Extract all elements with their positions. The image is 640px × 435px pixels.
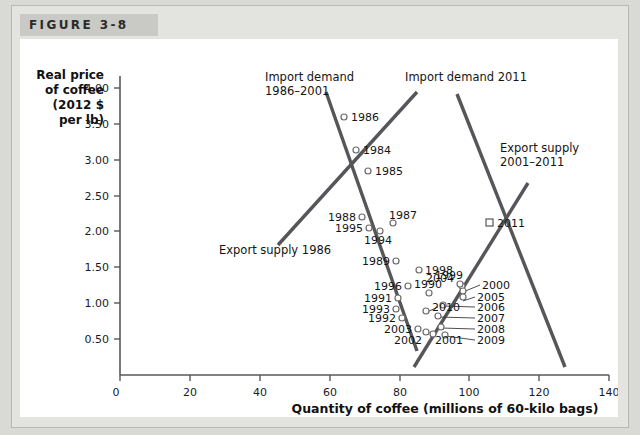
import-demand-1986-2001-label-line2: 1986–2001	[265, 84, 329, 98]
export-supply-2001-2011-label-line1: Export supply	[500, 141, 579, 155]
y-tick-label-3.00: 3.00	[85, 154, 110, 167]
data-point-1986[interactable]	[341, 114, 347, 120]
data-point-2003[interactable]	[415, 326, 421, 332]
export-supply-1986-label: Export supply 1986	[219, 243, 331, 257]
x-tick-label-40: 40	[253, 386, 267, 399]
data-point-1999[interactable]	[423, 308, 429, 314]
x-tick-label-0: 0	[113, 386, 120, 399]
data-point-1988[interactable]	[359, 214, 365, 220]
data-label-1995: 1995	[335, 222, 363, 235]
import-demand-1986-2001-label-line1: Import demand	[265, 70, 354, 84]
data-point-2011[interactable]	[486, 219, 493, 226]
data-label-1987: 1987	[389, 209, 417, 222]
data-label-2011: 2011	[497, 217, 525, 230]
x-axis-title: Quantity of coffee (millions of 60-kilo …	[292, 401, 599, 416]
x-tick-label-140: 140	[599, 386, 619, 399]
data-label-1994: 1994	[364, 234, 392, 247]
figure-header: FIGURE 3-8	[20, 14, 158, 36]
y-tick-label-0.50: 0.50	[85, 333, 110, 346]
data-label-1989: 1989	[362, 255, 390, 268]
curve-label-group: Import demand 1986–2001 Import demand 20…	[219, 70, 579, 257]
data-label-1986: 1986	[351, 111, 379, 124]
y-axis-title: Real price of coffee (2012 $ per lb)	[36, 68, 104, 127]
data-label-2004: 2009	[477, 334, 505, 347]
data-point-1989[interactable]	[393, 258, 399, 264]
data-point-2002[interactable]	[423, 329, 429, 335]
data-point-1985[interactable]	[365, 168, 371, 174]
import-demand-2011-curve	[457, 94, 565, 367]
data-point-2007[interactable]	[460, 294, 466, 300]
data-point-1998[interactable]	[416, 267, 422, 273]
y-tick-label-2.00: 2.00	[85, 225, 110, 238]
data-label-2001: 2001	[435, 334, 463, 347]
coffee-supply-demand-chart: 0.50 1.00 1.50 2.00 2.50 3.00 3.50 4.00 …	[20, 39, 618, 417]
data-point-2000[interactable]	[438, 324, 444, 330]
data-point-1984[interactable]	[353, 147, 359, 153]
data-label-1985: 1985	[375, 165, 403, 178]
axis-group: 0.50 1.00 1.50 2.00 2.50 3.00 3.50 4.00 …	[85, 76, 619, 399]
figure-card: FIGURE 3-8	[12, 6, 628, 427]
y-axis-title-line3: (2012 $	[53, 98, 104, 112]
y-axis-title-line2: of coffee	[45, 83, 104, 97]
x-tick-label-20: 20	[183, 386, 197, 399]
figure-number-label: FIGURE 3-8	[20, 18, 129, 32]
leader-2000	[441, 328, 475, 329]
data-label-1984: 1984	[363, 144, 391, 157]
data-point-1991[interactable]	[395, 295, 401, 301]
x-tick-label-100: 100	[459, 386, 480, 399]
data-label-2002: 2002	[394, 334, 422, 347]
x-tick-label-80: 80	[393, 386, 407, 399]
data-point-1992[interactable]	[399, 315, 405, 321]
import-demand-2011-label: Import demand 2011	[405, 70, 527, 84]
y-axis-title-line4: per lb)	[59, 113, 104, 127]
export-supply-2001-2011-label-line2: 2001–2011	[500, 155, 564, 169]
chart-plot-panel: 0.50 1.00 1.50 2.00 2.50 3.00 3.50 4.00 …	[20, 39, 618, 417]
data-point-1995[interactable]	[366, 225, 372, 231]
y-tick-label-1.50: 1.50	[85, 261, 110, 274]
data-point-2009[interactable]	[460, 288, 466, 294]
data-label-2008: 2004	[426, 272, 454, 285]
data-point-1996[interactable]	[405, 283, 411, 289]
x-tick-label-120: 120	[529, 386, 550, 399]
x-tick-label-60: 60	[323, 386, 337, 399]
y-tick-label-2.50: 2.50	[85, 190, 110, 203]
y-axis-title-line1: Real price	[36, 68, 104, 82]
data-label-1999: 2010	[432, 301, 460, 314]
y-tick-label-1.00: 1.00	[85, 297, 110, 310]
